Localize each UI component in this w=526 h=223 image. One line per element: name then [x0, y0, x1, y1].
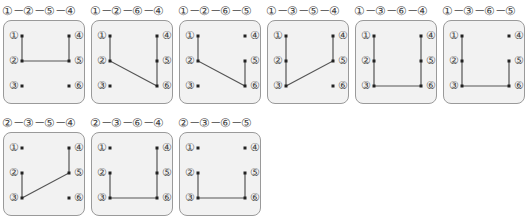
node-label-2: ② [7, 166, 21, 180]
node-label-4: ④ [160, 141, 174, 155]
path-diagram: ②－③－⑥－④①②③④⑤⑥ [90, 114, 174, 223]
node-dot [68, 60, 71, 63]
node-label-2: ② [95, 166, 109, 180]
node-dot [68, 172, 71, 175]
node-label-4: ④ [512, 29, 526, 43]
node-dot [420, 35, 423, 38]
node-dot [244, 172, 247, 175]
node-label-4: ④ [248, 29, 262, 43]
node-label-5: ⑤ [160, 54, 174, 68]
node-dot [156, 172, 159, 175]
node-label-3: ③ [183, 79, 197, 93]
path-diagram: ①－②－⑥－⑤①②③④⑤⑥ [178, 2, 262, 112]
path-diagram: ①－③－⑤－④①②③④⑤⑥ [266, 2, 350, 112]
node-label-3: ③ [7, 79, 21, 93]
path-diagram: ①－②－⑤－④①②③④⑤⑥ [2, 2, 86, 112]
node-dot [244, 197, 247, 200]
node-label-3: ③ [7, 191, 21, 205]
node-dot [156, 60, 159, 63]
node-label-2: ② [7, 54, 21, 68]
node-label-1: ① [95, 141, 109, 155]
node-label-3: ③ [95, 191, 109, 205]
node-label-5: ⑤ [72, 166, 86, 180]
node-dot [332, 85, 335, 88]
node-dot [244, 35, 247, 38]
node-label-5: ⑤ [248, 54, 262, 68]
node-dot [332, 60, 335, 63]
node-dot [156, 147, 159, 150]
node-dot [156, 35, 159, 38]
path-diagram: ①－③－⑥－⑤①②③④⑤⑥ [442, 2, 526, 112]
node-label-1: ① [183, 141, 197, 155]
node-label-2: ② [447, 54, 461, 68]
node-label-3: ③ [183, 191, 197, 205]
node-label-4: ④ [248, 141, 262, 155]
node-label-3: ③ [271, 79, 285, 93]
node-label-3: ③ [95, 79, 109, 93]
node-label-1: ① [447, 29, 461, 43]
node-label-5: ⑤ [512, 54, 526, 68]
node-label-4: ④ [72, 141, 86, 155]
node-label-2: ② [183, 166, 197, 180]
node-label-1: ① [7, 141, 21, 155]
path-diagram: ②－③－⑤－④①②③④⑤⑥ [2, 114, 86, 223]
node-label-6: ⑥ [248, 79, 262, 93]
node-label-5: ⑤ [160, 166, 174, 180]
node-dot [68, 197, 71, 200]
path-diagram: ①－②－⑥－④①②③④⑤⑥ [90, 2, 174, 112]
node-dot [68, 35, 71, 38]
node-label-6: ⑥ [72, 191, 86, 205]
node-dot [68, 85, 71, 88]
node-dot [508, 60, 511, 63]
node-dot [420, 60, 423, 63]
node-label-1: ① [271, 29, 285, 43]
node-label-1: ① [7, 29, 21, 43]
node-dot [244, 85, 247, 88]
node-label-1: ① [359, 29, 373, 43]
node-label-6: ⑥ [72, 79, 86, 93]
node-label-4: ④ [336, 29, 350, 43]
node-label-5: ⑤ [248, 166, 262, 180]
node-label-2: ② [359, 54, 373, 68]
node-dot [420, 85, 423, 88]
node-label-6: ⑥ [160, 79, 174, 93]
node-label-6: ⑥ [424, 79, 438, 93]
node-dot [332, 35, 335, 38]
node-label-4: ④ [160, 29, 174, 43]
node-label-5: ⑤ [72, 54, 86, 68]
node-label-2: ② [271, 54, 285, 68]
node-dot [508, 35, 511, 38]
node-label-2: ② [183, 54, 197, 68]
node-dot [156, 85, 159, 88]
node-dot [244, 60, 247, 63]
node-label-4: ④ [72, 29, 86, 43]
node-label-4: ④ [424, 29, 438, 43]
node-dot [68, 147, 71, 150]
path-diagram: ②－③－⑥－⑤①②③④⑤⑥ [178, 114, 262, 223]
node-label-3: ③ [447, 79, 461, 93]
path-diagram: ①－③－⑥－④①②③④⑤⑥ [354, 2, 438, 112]
node-label-1: ① [183, 29, 197, 43]
node-dot [156, 197, 159, 200]
node-dot [508, 85, 511, 88]
node-label-1: ① [95, 29, 109, 43]
node-dot [244, 147, 247, 150]
node-label-6: ⑥ [248, 191, 262, 205]
node-label-2: ② [95, 54, 109, 68]
node-label-3: ③ [359, 79, 373, 93]
node-label-6: ⑥ [336, 79, 350, 93]
node-label-5: ⑤ [424, 54, 438, 68]
node-label-6: ⑥ [512, 79, 526, 93]
node-label-6: ⑥ [160, 191, 174, 205]
node-label-5: ⑤ [336, 54, 350, 68]
